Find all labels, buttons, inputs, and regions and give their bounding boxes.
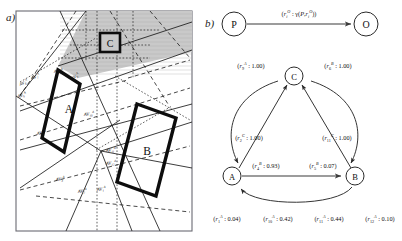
edge-c-to-a [231, 81, 278, 163]
panel-a-letter: a) [6, 11, 15, 23]
node-a-label: A [229, 172, 236, 182]
panel-b-diagram: P O (riO : γ(P,riO)) [201, 0, 402, 241]
node-p-label: P [231, 19, 237, 30]
panel-a: a) [0, 0, 201, 241]
edge-label-a-to-c: (r2C : 1.00) [235, 133, 263, 142]
edge-c-to-b [311, 81, 358, 163]
edge-label-bottom-4: (r12A : 0.10) [365, 214, 394, 223]
panel-b: b) P O (riO : γ(P,riO)) [201, 0, 402, 241]
edge-b-to-c [302, 85, 351, 168]
edge-label-a-to-b-2: (r5B : 0.07) [309, 161, 336, 170]
edge-label-bottom-2: (r10A : 0.42) [263, 214, 292, 223]
edge-label-b-to-c: (r11C : 1.00) [322, 133, 351, 142]
edge-a-to-c [239, 85, 287, 168]
rect-b-label: B [143, 145, 151, 157]
edge-p-to-o-label: (riO : γ(P,riO)) [282, 9, 317, 18]
edge-label-bottom-3: (r11A : 0.44) [314, 214, 343, 223]
edge-label-a-to-b-1: (r4B : 0.93) [252, 161, 279, 170]
edge-label-c-to-a: (r9A : 1.00) [237, 61, 264, 70]
edge-label-c-to-b: (r6B : 1.00) [324, 61, 351, 70]
rect-a-label: A [65, 103, 74, 115]
edge-label-bottom-1: (r1A : 0.04) [213, 214, 240, 223]
figure-root: a) [0, 0, 402, 241]
panel-b-letter: b) [205, 17, 214, 29]
node-o-label: O [362, 19, 369, 30]
top-diagram: P O (riO : γ(P,riO)) [222, 9, 378, 36]
edge-label-group: (r9A : 1.00) (r6B : 1.00) (r2C : 1.00) (… [213, 61, 394, 223]
panel-a-diagram: A B C AV1A AV2A AV3A AV4A AV5A [0, 0, 201, 241]
node-c-label: C [291, 72, 297, 82]
node-b-label: B [352, 172, 358, 182]
edge-b-to-a [241, 187, 352, 202]
state-graph: C A B (r9A : 1.00) (r6B : 1.00) (r2C : 1… [213, 61, 394, 223]
box-c-label: C [107, 38, 114, 49]
